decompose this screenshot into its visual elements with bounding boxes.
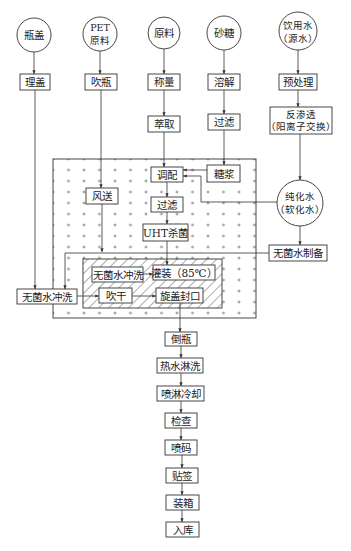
node-label: 热水淋洗 xyxy=(160,360,201,372)
node-label-line1: 纯化水 xyxy=(285,191,315,202)
node-label: 无菌水冲洗 xyxy=(93,269,144,281)
node-label: 装箱 xyxy=(173,497,193,509)
step-blow-bottles: 吹瓶 xyxy=(85,74,117,90)
node-label: 无菌水制备 xyxy=(273,247,324,259)
step-spray-cool: 喷淋冷却 xyxy=(157,386,204,401)
node-label: UHT杀菌 xyxy=(143,227,188,239)
node-label: 糖浆 xyxy=(214,168,235,180)
step-blow-dry: 吹干 xyxy=(99,288,132,303)
step-hot-rinse: 热水淋洗 xyxy=(157,358,203,373)
step-blend: 调配 xyxy=(151,167,183,182)
node-label-line1: 饮用水 xyxy=(283,20,313,31)
node-label: 喷码 xyxy=(171,442,191,454)
node-label-line1: PET xyxy=(90,22,110,33)
circle-shape xyxy=(277,180,323,226)
process-flow-diagram: 瓶盖 PET 原料 原料 砂糖 饮用水 （源水） 理盖 吹瓶 称量 溶解 预处理 xyxy=(0,0,351,551)
source-drinking-water: 饮用水 （源水） xyxy=(278,12,318,50)
node-label: 入库 xyxy=(173,524,193,536)
step-code-print: 喷码 xyxy=(165,440,197,455)
node-label: 倒瓶 xyxy=(171,333,192,345)
source-pet-material: PET 原料 xyxy=(83,17,117,51)
node-label: 预处理 xyxy=(283,76,314,88)
step-sugar-filter: 过滤 xyxy=(208,114,240,130)
source-bottle-cap: 瓶盖 xyxy=(17,18,51,52)
node-label: 瓶盖 xyxy=(24,29,45,41)
source-sugar: 砂糖 xyxy=(207,16,241,50)
step-boxing: 装箱 xyxy=(166,495,199,510)
node-label: 理盖 xyxy=(25,76,46,88)
node-label: 过滤 xyxy=(214,116,235,128)
step-syrup: 糖浆 xyxy=(207,165,240,182)
step-pretreat: 预处理 xyxy=(279,74,317,90)
node-label: 灌装（85℃） xyxy=(151,267,216,279)
node-label-line1: 反渗透 xyxy=(286,109,316,120)
step-uht-sterilize: UHT杀菌 xyxy=(143,224,188,241)
step-filter: 过滤 xyxy=(151,197,183,212)
node-label: 风送 xyxy=(92,190,113,202)
step-pure-water: 纯化水 （软化水） xyxy=(275,180,325,226)
step-weigh: 称量 xyxy=(148,74,180,90)
node-label: 称量 xyxy=(154,76,175,88)
node-label: 吹瓶 xyxy=(91,76,112,88)
node-label: 原料 xyxy=(154,27,175,39)
node-label: 吹干 xyxy=(106,290,126,302)
step-fill: 灌装（85℃） xyxy=(151,265,216,280)
node-label: 溶解 xyxy=(214,76,235,88)
node-label-line2: （阳离子交换） xyxy=(266,121,336,132)
source-raw-material: 原料 xyxy=(148,17,180,49)
step-sort-caps: 理盖 xyxy=(20,74,50,90)
node-label: 喷淋冷却 xyxy=(161,388,201,400)
step-bottle-rinse: 无菌水冲洗 xyxy=(92,267,144,282)
node-label: 萃取 xyxy=(154,118,175,130)
step-air-convey: 风送 xyxy=(86,188,118,204)
step-extract: 萃取 xyxy=(148,116,180,132)
step-cap-rinse: 无菌水冲洗 xyxy=(17,289,77,304)
node-label: 旋盖封口 xyxy=(160,290,200,302)
step-labeling: 贴签 xyxy=(166,468,198,483)
step-warehouse: 入库 xyxy=(166,522,199,537)
node-label: 贴签 xyxy=(172,470,193,482)
step-reverse-osmosis: 反渗透 （阳离子交换） xyxy=(266,107,336,134)
step-cap-seal: 旋盖封口 xyxy=(156,288,203,303)
step-invert-bottle: 倒瓶 xyxy=(165,332,197,346)
step-dissolve: 溶解 xyxy=(208,74,240,90)
node-label: 检查 xyxy=(171,415,192,427)
node-label-line2: （源水） xyxy=(278,33,318,44)
node-label: 调配 xyxy=(157,169,178,181)
node-label-line2: 原料 xyxy=(90,35,110,46)
step-inspect: 检查 xyxy=(165,413,197,428)
node-label: 无菌水冲洗 xyxy=(22,291,73,303)
node-label: 砂糖 xyxy=(214,27,235,39)
circle-shape xyxy=(279,12,317,50)
node-label-line2: （软化水） xyxy=(275,204,325,215)
step-sterile-water-prep: 无菌水制备 xyxy=(269,245,327,261)
node-label: 过滤 xyxy=(157,199,178,211)
